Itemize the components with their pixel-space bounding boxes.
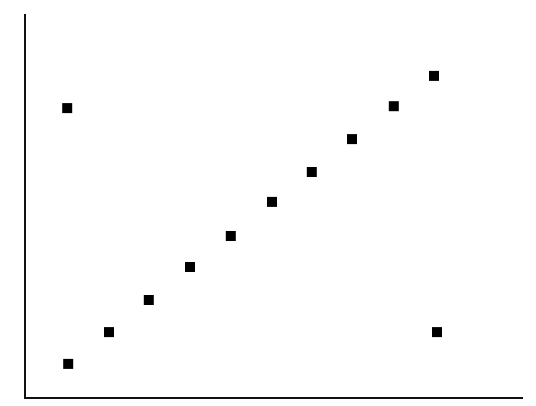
data-point xyxy=(267,197,277,207)
data-point xyxy=(144,295,154,305)
data-point xyxy=(226,231,236,241)
data-point xyxy=(432,327,442,337)
data-point xyxy=(389,101,399,111)
data-point xyxy=(104,327,114,337)
data-point xyxy=(307,167,317,177)
data-point xyxy=(63,359,73,369)
data-point xyxy=(347,134,357,144)
data-point xyxy=(429,71,439,81)
data-point xyxy=(185,262,195,272)
data-point xyxy=(62,103,72,113)
data-points xyxy=(62,71,442,369)
scatter-chart xyxy=(0,0,536,406)
